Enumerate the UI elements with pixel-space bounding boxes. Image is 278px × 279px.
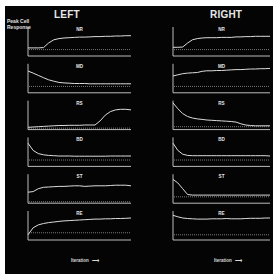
panel-right-nr: NR xyxy=(173,27,270,56)
x-axis-label-left: Iteration⟶ xyxy=(71,258,99,263)
x-axis-label-text: Iteration xyxy=(214,258,232,263)
response-trace xyxy=(28,109,131,127)
panel-label: RE xyxy=(218,211,224,216)
response-trace xyxy=(173,103,270,126)
response-trace xyxy=(173,179,270,195)
panel-label: ST xyxy=(77,174,83,179)
panel-label: MD xyxy=(218,64,226,69)
panel-label: RE xyxy=(76,211,82,216)
response-trace xyxy=(28,71,131,84)
panel-left-st: ST xyxy=(28,174,131,203)
small-multiples-chart: NRMDRSBDSTRENRMDRSBDSTRE xyxy=(0,0,278,279)
panel-right-rs: RS xyxy=(173,101,270,130)
panel-right-st: ST xyxy=(173,174,270,203)
x-axis-label-text: Iteration xyxy=(71,258,89,263)
panel-left-bd: BD xyxy=(28,137,131,166)
response-trace xyxy=(28,185,131,192)
panel-label: NR xyxy=(76,27,83,32)
response-trace xyxy=(28,143,131,156)
panel-left-md: MD xyxy=(28,64,131,93)
panel-label: RS xyxy=(76,101,82,106)
panel-right-md: MD xyxy=(173,64,270,93)
panel-left-nr: NR xyxy=(28,27,131,56)
response-trace xyxy=(28,218,131,235)
response-trace xyxy=(173,36,270,47)
response-trace xyxy=(173,143,270,156)
panel-left-re: RE xyxy=(28,211,131,240)
panel-label: RS xyxy=(218,101,224,106)
panel-label: MD xyxy=(76,64,84,69)
panel-label: BD xyxy=(218,137,225,142)
response-trace xyxy=(28,36,131,48)
right-arrow-icon: ⟶ xyxy=(235,258,242,263)
panel-label: ST xyxy=(219,174,225,179)
panel-left-rs: RS xyxy=(28,101,131,130)
panel-label: BD xyxy=(76,137,83,142)
x-axis-label-right: Iteration⟶ xyxy=(214,258,242,263)
panel-right-re: RE xyxy=(173,211,270,240)
right-arrow-icon: ⟶ xyxy=(92,258,99,263)
panel-label: NR xyxy=(218,27,225,32)
panel-right-bd: BD xyxy=(173,137,270,166)
response-trace xyxy=(173,68,270,76)
